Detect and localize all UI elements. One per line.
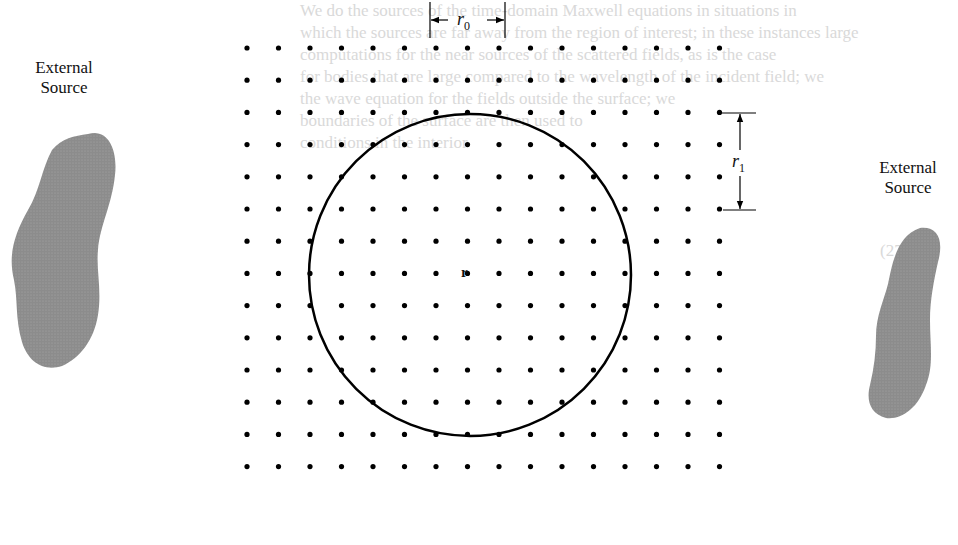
lattice-point (622, 432, 627, 437)
lattice-point (717, 367, 722, 372)
lattice-point (244, 464, 249, 469)
lattice-point (370, 206, 375, 211)
lattice-point (402, 271, 407, 276)
lattice-point (339, 45, 344, 50)
lattice-point (591, 142, 596, 147)
lattice-point (717, 400, 722, 405)
lattice-point (622, 206, 627, 211)
lattice-point (307, 464, 312, 469)
lattice-point (591, 400, 596, 405)
lattice-point (559, 45, 564, 50)
lattice-point (244, 271, 249, 276)
lattice-point (685, 335, 690, 340)
r-symbol: r (461, 264, 468, 280)
lattice-point (559, 206, 564, 211)
left-source-label: External Source (22, 58, 106, 98)
lattice-point (496, 110, 501, 115)
lattice-point (496, 271, 501, 276)
lattice-point (591, 367, 596, 372)
lattice-point (402, 206, 407, 211)
lattice-point (370, 78, 375, 83)
lattice-point (307, 400, 312, 405)
r0-subscript: 0 (464, 19, 470, 33)
lattice-point (339, 239, 344, 244)
lattice-point (339, 78, 344, 83)
lattice-point (622, 271, 627, 276)
lattice-point (244, 110, 249, 115)
lattice-point (433, 239, 438, 244)
lattice-point (591, 464, 596, 469)
lattice-point (528, 174, 533, 179)
lattice-point (370, 464, 375, 469)
lattice-point (433, 78, 438, 83)
lattice-point (528, 367, 533, 372)
lattice-point (528, 206, 533, 211)
lattice-point (717, 110, 722, 115)
lattice-point (717, 464, 722, 469)
lattice-point (717, 303, 722, 308)
lattice-point (717, 174, 722, 179)
lattice-points (244, 45, 722, 469)
lattice-point (528, 78, 533, 83)
r0-label: r0 (457, 9, 470, 34)
lattice-point (307, 335, 312, 340)
lattice-point (433, 110, 438, 115)
lattice-point (622, 367, 627, 372)
lattice-figure (0, 0, 958, 545)
lattice-point (496, 239, 501, 244)
lattice-point (339, 303, 344, 308)
lattice-point (685, 174, 690, 179)
lattice-point (465, 206, 470, 211)
lattice-point (433, 271, 438, 276)
lattice-point (528, 239, 533, 244)
lattice-point (528, 303, 533, 308)
lattice-point (528, 142, 533, 147)
lattice-point (402, 174, 407, 179)
lattice-point (528, 464, 533, 469)
lattice-point (433, 174, 438, 179)
lattice-point (307, 142, 312, 147)
lattice-point (685, 110, 690, 115)
lattice-point (496, 464, 501, 469)
lattice-point (591, 239, 596, 244)
r1-symbol: r (732, 151, 739, 171)
lattice-point (276, 78, 281, 83)
lattice-point (496, 400, 501, 405)
lattice-point (528, 271, 533, 276)
lattice-point (654, 78, 659, 83)
lattice-point (591, 271, 596, 276)
lattice-point (654, 367, 659, 372)
lattice-point (244, 174, 249, 179)
right-source-blob (869, 228, 941, 418)
lattice-point (339, 110, 344, 115)
lattice-point (339, 400, 344, 405)
lattice-point (402, 142, 407, 147)
lattice-point (370, 303, 375, 308)
lattice-point (370, 432, 375, 437)
lattice-point (622, 174, 627, 179)
lattice-point (528, 432, 533, 437)
lattice-point (717, 271, 722, 276)
lattice-point (685, 142, 690, 147)
lattice-point (717, 206, 722, 211)
lattice-point (496, 45, 501, 50)
lattice-point (307, 432, 312, 437)
lattice-point (622, 78, 627, 83)
lattice-point (465, 45, 470, 50)
lattice-point (685, 239, 690, 244)
lattice-point (465, 78, 470, 83)
lattice-point (654, 303, 659, 308)
lattice-point (717, 432, 722, 437)
lattice-point (528, 110, 533, 115)
lattice-point (402, 78, 407, 83)
r1-label: r1 (731, 151, 746, 176)
lattice-point (433, 464, 438, 469)
lattice-point (717, 335, 722, 340)
lattice-point (622, 142, 627, 147)
left-source-label-line1: External (22, 58, 106, 78)
lattice-point (591, 206, 596, 211)
lattice-point (654, 464, 659, 469)
r1-subscript: 1 (739, 161, 745, 175)
lattice-point (465, 335, 470, 340)
lattice-point (496, 335, 501, 340)
